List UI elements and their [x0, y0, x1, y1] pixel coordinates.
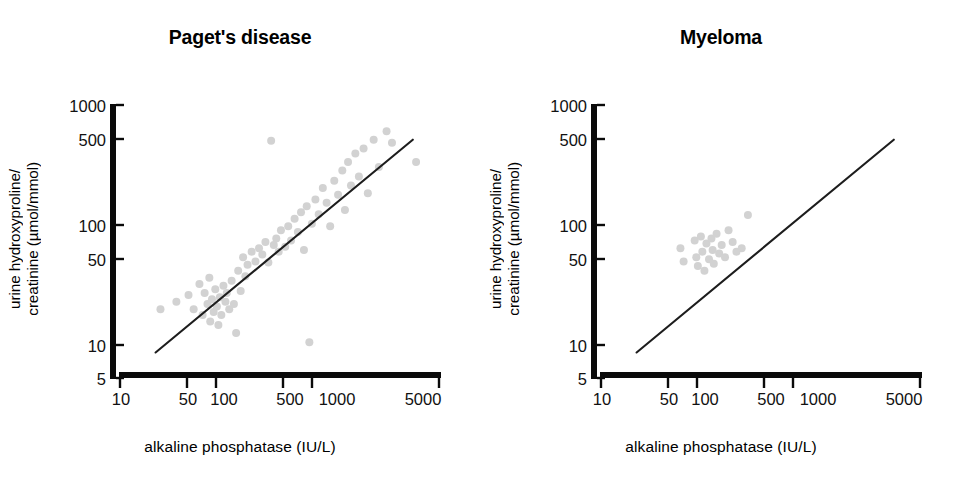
- data-point: [195, 280, 203, 288]
- data-point: [205, 274, 213, 282]
- y-tick-label: 100: [559, 217, 587, 235]
- data-point: [412, 158, 420, 166]
- data-point: [277, 226, 285, 234]
- data-point: [721, 253, 729, 261]
- figure-root: Paget's disease urine hydroxyproline/ cr…: [0, 0, 961, 488]
- data-point: [232, 329, 240, 337]
- data-point: [214, 321, 222, 329]
- trend-line-paget: [156, 140, 413, 353]
- data-point: [330, 177, 338, 185]
- plot-area-myeloma: 1000 500 100 50 10 5 10 50 100 500 1000 …: [481, 0, 961, 488]
- x-axis-title-paget: alkaline phosphatase (IU/L): [0, 438, 480, 456]
- y-axis-line: [110, 104, 116, 379]
- data-point: [284, 222, 292, 230]
- data-point: [272, 234, 280, 242]
- data-point: [156, 305, 164, 313]
- trend-line: [637, 140, 894, 353]
- y-tick-label: 500: [559, 131, 587, 149]
- data-point: [237, 287, 245, 295]
- x-axis-ticks: [120, 378, 439, 388]
- data-point: [360, 144, 368, 152]
- x-tick-label: 500: [757, 390, 785, 408]
- trend-line: [156, 140, 413, 353]
- y-axis-ticks: [116, 105, 124, 378]
- data-point: [698, 248, 706, 256]
- data-point: [219, 282, 227, 290]
- data-point: [351, 150, 359, 158]
- x-tick-label: 10: [593, 390, 611, 408]
- data-point: [370, 136, 378, 144]
- y-axis-line: [591, 104, 597, 379]
- data-point: [338, 167, 346, 175]
- data-point: [355, 172, 363, 180]
- data-point: [692, 253, 700, 261]
- data-point: [319, 184, 327, 192]
- data-point: [388, 139, 396, 147]
- data-point: [341, 206, 349, 214]
- data-point: [326, 222, 334, 230]
- data-point: [710, 260, 718, 268]
- data-point: [239, 253, 247, 261]
- data-point: [228, 277, 236, 285]
- data-point: [323, 199, 331, 207]
- data-point: [383, 127, 391, 135]
- y-tick-label: 100: [78, 217, 106, 235]
- x-tick-label: 500: [276, 390, 304, 408]
- y-tick-label: 10: [569, 337, 587, 355]
- data-point: [713, 230, 721, 238]
- data-point: [334, 191, 342, 199]
- y-tick-label: 10: [88, 337, 106, 355]
- data-point: [258, 250, 266, 258]
- y-tick-labels: 1000 500 100 50 10 5: [550, 97, 587, 388]
- data-point: [267, 137, 275, 145]
- x-tick-label: 1000: [319, 390, 356, 408]
- data-point: [206, 317, 214, 325]
- data-point: [694, 262, 702, 270]
- x-tick-label: 50: [179, 390, 197, 408]
- data-point: [676, 244, 684, 252]
- data-point: [738, 244, 746, 252]
- panel-paget: Paget's disease urine hydroxyproline/ cr…: [0, 0, 480, 488]
- plot-area-paget: 1000 500 100 50 10 5 10 50 100 500 1000 …: [0, 0, 480, 488]
- data-point: [300, 246, 308, 254]
- x-tick-label: 1000: [800, 390, 837, 408]
- data-point: [744, 211, 752, 219]
- data-point: [217, 311, 225, 319]
- scatter-points-paget: [156, 127, 420, 346]
- y-tick-label: 5: [97, 370, 106, 388]
- x-tick-label: 100: [210, 390, 238, 408]
- x-tick-labels: 10 50 100 500 1000 5000: [593, 390, 923, 408]
- x-axis-title-myeloma: alkaline phosphatase (IU/L): [481, 438, 961, 456]
- data-point: [211, 285, 219, 293]
- panel-myeloma: Myeloma urine hydroxyproline/ creatinine…: [481, 0, 961, 488]
- y-tick-label: 5: [578, 370, 587, 388]
- data-point: [261, 238, 269, 246]
- x-axis-ticks: [601, 378, 920, 388]
- data-point: [190, 305, 198, 313]
- y-tick-label: 50: [88, 251, 106, 269]
- x-tick-label: 50: [660, 390, 678, 408]
- data-point: [291, 215, 299, 223]
- y-tick-label: 500: [78, 131, 106, 149]
- y-tick-label: 1000: [69, 97, 106, 115]
- y-axis-ticks: [597, 105, 605, 378]
- x-tick-label: 100: [691, 390, 719, 408]
- x-tick-label: 10: [112, 390, 130, 408]
- y-tick-label: 1000: [550, 97, 587, 115]
- data-point: [700, 267, 708, 275]
- data-point: [221, 298, 229, 306]
- data-point: [305, 338, 313, 346]
- x-tick-labels: 10 50 100 500 1000 5000: [112, 390, 442, 408]
- data-point: [697, 232, 705, 240]
- data-point: [718, 241, 726, 249]
- data-point: [297, 208, 305, 216]
- y-tick-label: 50: [569, 251, 587, 269]
- data-point: [303, 202, 311, 210]
- data-point: [234, 267, 242, 275]
- data-point: [364, 189, 372, 197]
- x-tick-label: 5000: [405, 390, 442, 408]
- trend-line-myeloma: [637, 140, 894, 353]
- x-axis-line: [119, 372, 441, 378]
- data-point: [244, 261, 252, 269]
- x-axis-line: [600, 372, 922, 378]
